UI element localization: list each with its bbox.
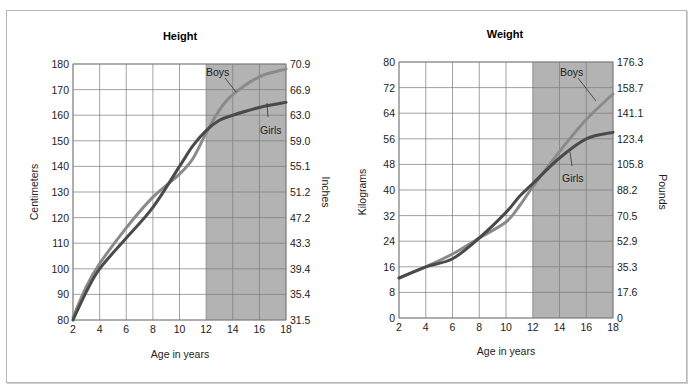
x-tick-label: 12 [200, 323, 212, 335]
weight-y-axis-label-kg: Kilograms [356, 169, 368, 216]
y-tick-label: 8 [389, 286, 395, 298]
weight-y-ticks-kg: 08162432404856647280 [383, 56, 395, 324]
y-right-tick-label: 35.3 [617, 261, 638, 273]
y-tick-label: 170 [51, 84, 69, 96]
y-tick-label: 110 [52, 237, 69, 249]
x-tick-label: 4 [423, 321, 429, 333]
x-tick-label: 10 [500, 321, 512, 333]
y-right-tick-label: 51.2 [290, 186, 311, 198]
x-tick-label: 18 [280, 323, 292, 335]
height-y-axis-label-cm: Centimeters [28, 164, 40, 221]
x-tick-label: 16 [580, 321, 592, 333]
x-tick-label: 8 [150, 323, 156, 335]
y-tick-label: 140 [51, 160, 69, 172]
x-tick-label: 2 [396, 321, 402, 333]
height-chart: Height 8090100110120130140150160170180 3… [28, 30, 332, 360]
weight-chart: Weight 08162432404856647280 017.635.352.… [356, 28, 669, 357]
y-right-tick-label: 52.9 [617, 235, 638, 247]
x-tick-label: 12 [527, 321, 539, 333]
weight-girls-label: Girls [562, 172, 584, 184]
height-boys-label: Boys [206, 66, 229, 78]
height-x-axis-label: Age in years [151, 348, 209, 360]
y-right-tick-label: 123.4 [617, 133, 643, 145]
y-right-tick-label: 17.6 [617, 286, 638, 298]
y-tick-label: 16 [383, 261, 395, 273]
height-y-axis-label-inches: Inches [320, 177, 332, 208]
y-tick-label: 120 [51, 212, 69, 224]
y-tick-label: 32 [383, 210, 395, 222]
x-tick-label: 16 [254, 323, 266, 335]
x-tick-label: 2 [70, 323, 76, 335]
y-right-tick-label: 105.8 [617, 158, 643, 170]
y-right-tick-label: 31.5 [290, 314, 311, 326]
y-tick-label: 24 [383, 235, 395, 247]
x-tick-label: 6 [123, 323, 129, 335]
y-tick-label: 130 [51, 186, 69, 198]
x-tick-label: 18 [607, 321, 619, 333]
x-tick-label: 4 [97, 323, 103, 335]
height-y-ticks-cm: 8090100110120130140150160170180 [51, 58, 69, 326]
y-right-tick-label: 55.1 [290, 160, 311, 172]
y-right-tick-label: 70.9 [290, 58, 311, 70]
y-tick-label: 180 [51, 58, 69, 70]
weight-y-ticks-pounds: 017.635.352.970.588.2105.8123.4141.1158.… [617, 56, 643, 324]
y-tick-label: 56 [383, 133, 395, 145]
y-right-tick-label: 63.0 [290, 109, 311, 121]
x-tick-label: 14 [227, 323, 239, 335]
y-tick-label: 90 [57, 288, 69, 300]
growth-charts: Height 8090100110120130140150160170180 3… [0, 0, 692, 390]
x-tick-label: 8 [476, 321, 482, 333]
x-tick-label: 6 [450, 321, 456, 333]
y-tick-label: 160 [51, 109, 69, 121]
y-right-tick-label: 39.4 [290, 263, 311, 275]
y-tick-label: 80 [57, 314, 69, 326]
y-right-tick-label: 43.3 [290, 237, 311, 249]
height-chart-title: Height [163, 30, 198, 42]
y-right-tick-label: 158.7 [617, 82, 643, 94]
y-tick-label: 40 [383, 184, 395, 196]
y-tick-label: 72 [383, 82, 395, 94]
y-tick-label: 80 [383, 56, 395, 68]
height-y-ticks-inches: 31.535.439.443.347.251.255.159.063.066.9… [290, 58, 311, 326]
height-girls-label: Girls [260, 124, 282, 136]
y-right-tick-label: 35.4 [290, 288, 311, 300]
y-right-tick-label: 66.9 [290, 84, 311, 96]
weight-boys-label: Boys [560, 66, 583, 78]
y-tick-label: 100 [51, 263, 69, 275]
y-tick-label: 64 [383, 107, 395, 119]
y-tick-label: 48 [383, 158, 395, 170]
weight-x-ticks: 24681012141618 [396, 321, 619, 333]
weight-x-axis-label: Age in years [477, 345, 535, 357]
y-right-tick-label: 59.0 [290, 135, 311, 147]
height-x-ticks: 24681012141618 [70, 323, 292, 335]
weight-chart-title: Weight [487, 28, 524, 40]
x-tick-label: 10 [174, 323, 186, 335]
y-right-tick-label: 141.1 [617, 107, 643, 119]
weight-y-axis-label-pounds: Pounds [657, 174, 669, 210]
y-right-tick-label: 176.3 [617, 56, 643, 68]
y-tick-label: 0 [389, 312, 395, 324]
y-right-tick-label: 47.2 [290, 212, 311, 224]
x-tick-label: 14 [554, 321, 566, 333]
y-right-tick-label: 88.2 [617, 184, 638, 196]
y-right-tick-label: 70.5 [617, 210, 638, 222]
y-tick-label: 150 [51, 135, 69, 147]
